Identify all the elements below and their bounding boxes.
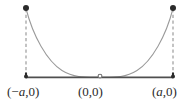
label-left-comma-zero: ,0	[25, 84, 35, 99]
label-origin: (0,0)	[78, 85, 103, 98]
left-endpoint-dot	[23, 5, 29, 11]
label-center-close-paren: )	[99, 84, 103, 99]
label-left-endpoint: (−a,0)	[7, 85, 39, 98]
catenary-curve-path	[26, 9, 173, 78]
right-axis-point-marker	[171, 75, 175, 79]
label-left-close-paren: )	[35, 84, 39, 99]
label-right-close-paren: )	[173, 84, 177, 99]
origin-open-circle-marker	[98, 74, 102, 78]
left-axis-point-marker	[24, 75, 28, 79]
label-left-minus-sign: −	[11, 84, 18, 99]
figure-container: (−a,0) (0,0) (a,0)	[0, 0, 193, 107]
label-right-comma-zero: ,0	[163, 84, 173, 99]
label-right-endpoint: (a,0)	[152, 85, 177, 98]
right-endpoint-dot	[170, 5, 176, 11]
label-center-value: 0,0	[82, 84, 98, 99]
